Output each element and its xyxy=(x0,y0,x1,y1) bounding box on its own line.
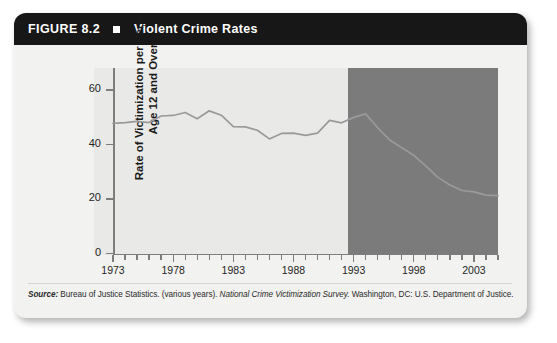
figure-title: Violent Crime Rates xyxy=(134,22,258,36)
x-axis-tick xyxy=(209,255,210,260)
source-divider xyxy=(28,283,512,284)
x-axis-tick xyxy=(341,255,342,260)
x-axis-tick xyxy=(389,255,390,260)
x-axis-tick xyxy=(124,255,125,260)
x-axis-tick xyxy=(425,255,426,260)
x-axis-tick xyxy=(449,255,450,260)
x-axis-tick xyxy=(317,255,318,260)
x-axis-tick xyxy=(257,255,258,260)
x-axis-tick-major: 1973 xyxy=(112,255,113,262)
x-axis-tick-major: 1998 xyxy=(413,255,414,262)
x-axis-tick xyxy=(497,255,498,260)
source-text-before: Bureau of Justice Statistics. (various y… xyxy=(58,290,219,299)
x-axis-tick-major: 2003 xyxy=(473,255,474,262)
x-axis-tick-major: 1993 xyxy=(353,255,354,262)
x-axis-tick-label: 1993 xyxy=(342,264,365,276)
x-axis-tick xyxy=(401,255,402,260)
x-axis-tick xyxy=(245,255,246,260)
x-axis-tick xyxy=(281,255,282,260)
x-axis-tick xyxy=(221,255,222,260)
x-axis-tick xyxy=(461,255,462,260)
x-axis-tick xyxy=(329,255,330,260)
figure-card: FIGURE 8.2 Violent Crime Rates Rate of V… xyxy=(14,13,527,318)
x-axis-tick xyxy=(305,255,306,260)
source-text-after: Washington, DC: U.S. Department of Justi… xyxy=(349,290,513,299)
figure-header: FIGURE 8.2 Violent Crime Rates xyxy=(14,13,527,45)
x-axis-tick-label: 1973 xyxy=(101,264,124,276)
plot-frame: Rate of Victimization per Persons Age 12… xyxy=(94,68,498,255)
x-axis-tick xyxy=(437,255,438,260)
x-axis-tick xyxy=(365,255,366,260)
source-label: Source: xyxy=(28,290,58,299)
source-publication-title: National Crime Victimization Survey. xyxy=(220,290,350,299)
x-axis-tick xyxy=(269,255,270,260)
x-axis-tick-label: 1998 xyxy=(402,264,425,276)
x-axis-tick-label: 1988 xyxy=(282,264,305,276)
x-axis-tick-label: 2003 xyxy=(462,264,485,276)
figure-number: FIGURE 8.2 xyxy=(28,22,100,36)
source-note: Source: Bureau of Justice Statistics. (v… xyxy=(28,290,520,301)
series-polyline xyxy=(113,111,498,196)
x-axis-tick-label: 1983 xyxy=(222,264,245,276)
x-axis-tick-label: 1978 xyxy=(161,264,184,276)
x-axis-tick xyxy=(485,255,486,260)
series-line-chart xyxy=(94,68,498,255)
x-axis-tick xyxy=(148,255,149,260)
x-axis-tick xyxy=(185,255,186,260)
chart-area: Rate of Victimization per Persons Age 12… xyxy=(14,45,527,288)
x-axis-tick-major: 1988 xyxy=(293,255,294,262)
x-axis-tick xyxy=(197,255,198,260)
x-axis-tick-major: 1978 xyxy=(173,255,174,262)
x-axis-tick-major: 1983 xyxy=(233,255,234,262)
x-axis-tick xyxy=(160,255,161,260)
x-axis-tick xyxy=(377,255,378,260)
x-axis-tick xyxy=(136,255,137,260)
square-bullet-icon xyxy=(113,26,120,33)
